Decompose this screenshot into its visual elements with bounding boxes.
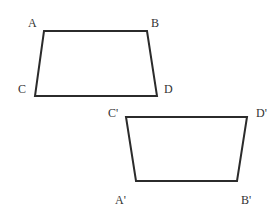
trapezoid-abdc-outline: [35, 31, 157, 96]
trapezoid-image-outline: [126, 117, 247, 181]
vertex-label-b: B: [151, 16, 159, 30]
vertex-label-d: D: [164, 82, 173, 96]
vertex-label-c: C: [18, 82, 26, 96]
vertex-label-a: A: [28, 16, 37, 30]
trapezoid-image: C' D' B' A': [108, 106, 267, 207]
trapezoid-abdc: A B D C: [18, 16, 173, 96]
vertex-label-a-prime: A': [115, 193, 126, 207]
diagram-canvas: A B D C C' D' B' A': [0, 0, 279, 216]
vertex-label-d-prime: D': [256, 106, 267, 120]
vertex-label-c-prime: C': [108, 106, 118, 120]
vertex-label-b-prime: B': [241, 193, 251, 207]
